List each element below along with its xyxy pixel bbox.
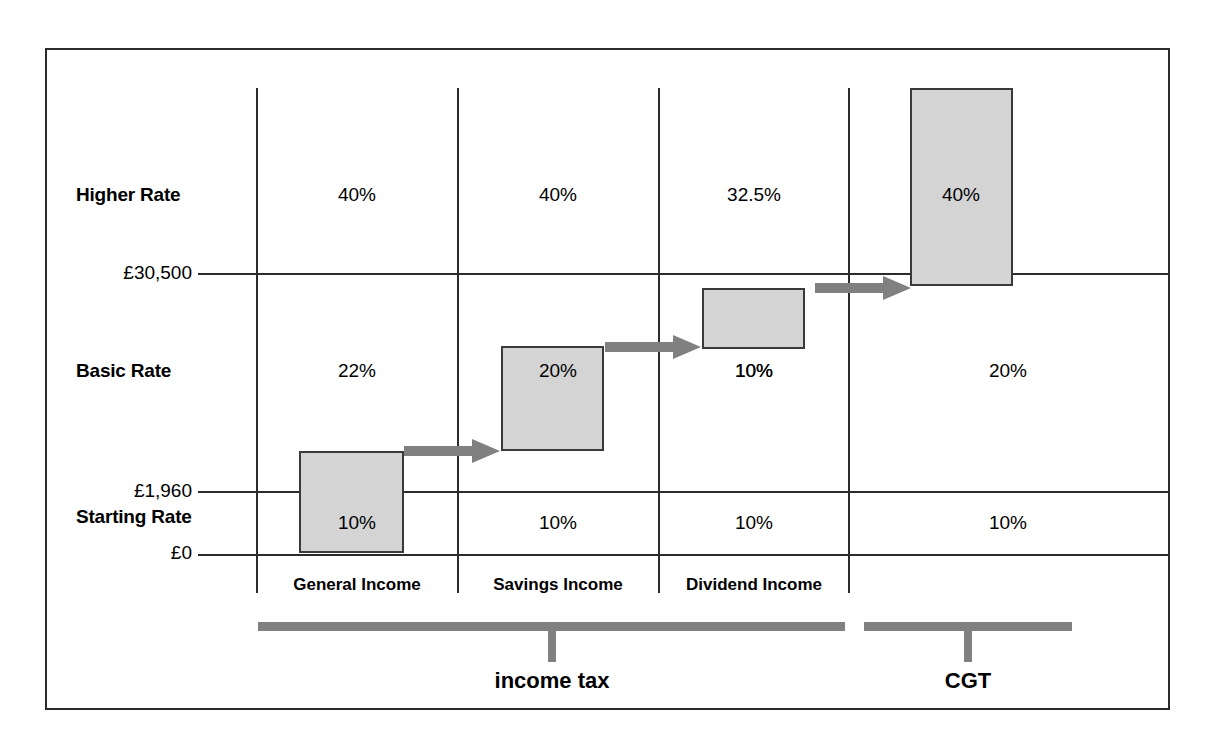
bracket-stem-cgt xyxy=(964,622,972,662)
axis-label-middle: £1,960 xyxy=(77,480,192,502)
flow-arrow-dividend-to-cgt xyxy=(815,273,915,303)
diagram-frame: Higher Rate Basic Rate Starting Rate £30… xyxy=(45,48,1170,710)
bracket-label-cgt: CGT xyxy=(945,668,991,694)
column-header-general: General Income xyxy=(293,575,421,595)
highlight-box-dividend-basic xyxy=(702,288,805,349)
band-label-higher: Higher Rate xyxy=(76,184,180,206)
gridline-threshold-zero xyxy=(198,554,1168,556)
rate-higher-savings: 40% xyxy=(539,184,577,206)
rate-higher-dividend: 32.5% xyxy=(727,184,781,206)
axis-label-upper: £30,500 xyxy=(77,262,192,284)
flow-arrow-savings-to-dividend xyxy=(605,332,705,362)
diagram-page: Higher Rate Basic Rate Starting Rate £30… xyxy=(0,0,1206,750)
rate-basic-general: 22% xyxy=(338,360,376,382)
column-header-dividend: Dividend Income xyxy=(686,575,822,595)
gridline-vertical-1 xyxy=(256,88,258,593)
highlight-label-general-starting: 10% xyxy=(338,512,376,534)
rate-starting-cgt: 10% xyxy=(989,512,1027,534)
gridline-vertical-2 xyxy=(457,88,459,593)
gridline-vertical-4 xyxy=(848,88,850,593)
band-label-basic: Basic Rate xyxy=(76,360,171,382)
highlight-label-dividend-basic: 10% xyxy=(735,360,773,382)
axis-label-zero: £0 xyxy=(77,542,192,564)
rate-basic-cgt: 20% xyxy=(989,360,1027,382)
rate-starting-dividend: 10% xyxy=(735,512,773,534)
bracket-stem-income-tax xyxy=(548,622,556,662)
band-label-starting: Starting Rate xyxy=(76,506,192,528)
highlight-label-savings-basic: 20% xyxy=(539,360,577,382)
flow-arrow-general-to-savings xyxy=(404,436,504,466)
rate-starting-savings: 10% xyxy=(539,512,577,534)
highlight-box-general-starting xyxy=(299,451,404,553)
highlight-label-cgt-higher: 40% xyxy=(942,184,980,206)
gridline-threshold-upper xyxy=(198,273,1168,275)
bracket-label-income-tax: income tax xyxy=(495,668,610,694)
column-header-savings: Savings Income xyxy=(493,575,622,595)
rate-higher-general: 40% xyxy=(338,184,376,206)
